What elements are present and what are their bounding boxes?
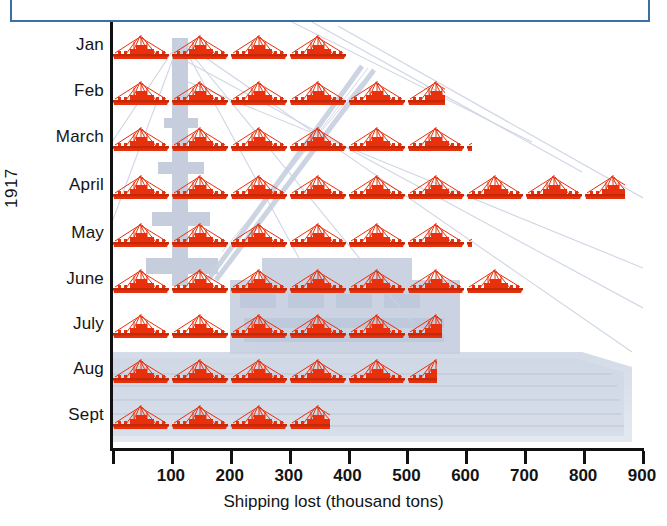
x-tick-800 [583, 451, 586, 464]
month-label-feb: Feb [8, 82, 104, 99]
ship-icon [289, 311, 348, 341]
ship-icon-partial [407, 78, 445, 108]
ship-icon [230, 220, 289, 250]
x-tick-200 [230, 451, 233, 464]
ship-icon-partial [407, 356, 437, 386]
ship-icon [348, 124, 407, 154]
ship-icon [348, 172, 407, 202]
ship-icon [230, 124, 289, 154]
ship-icon [525, 172, 584, 202]
ship-icon [171, 402, 230, 432]
ship-icon [171, 356, 230, 386]
ship-icon [112, 266, 171, 296]
ship-icon [171, 311, 230, 341]
ship-icon [289, 220, 348, 250]
x-tick-label-500: 500 [376, 466, 436, 486]
ship-icon [348, 266, 407, 296]
ship-row-feb [112, 78, 445, 112]
ship-icon [171, 124, 230, 154]
x-tick-label-100: 100 [141, 466, 201, 486]
x-tick-label-600: 600 [435, 466, 495, 486]
x-tick-400 [348, 451, 351, 464]
month-label-april: April [8, 176, 104, 193]
x-tick-label-300: 300 [259, 466, 319, 486]
ship-icon-partial [407, 311, 442, 341]
month-label-may: May [8, 224, 104, 241]
ship-icon-partial [466, 220, 472, 250]
ship-icon [112, 311, 171, 341]
ship-row-july [112, 311, 442, 345]
ship-row-june [112, 266, 525, 300]
ship-icon [466, 172, 525, 202]
ship-icon [171, 78, 230, 108]
ship-icon [348, 220, 407, 250]
ship-row-march [112, 124, 472, 158]
ship-icon [230, 32, 289, 62]
x-tick-700 [524, 451, 527, 464]
ship-icon [230, 356, 289, 386]
ship-icon-partial [289, 402, 330, 432]
x-tick-label-700: 700 [494, 466, 554, 486]
x-tick-label-900: 900 [612, 466, 667, 486]
ship-icon [230, 311, 289, 341]
x-tick-label-800: 800 [553, 466, 613, 486]
y-axis-title: 1917 [2, 168, 22, 208]
ship-icon [289, 172, 348, 202]
month-label-march: March [8, 128, 104, 145]
ship-icon-partial [466, 124, 472, 154]
x-tick-0 [112, 451, 115, 464]
x-axis-line [110, 448, 644, 451]
ship-icon [171, 220, 230, 250]
month-axis-labels: JanFebMarchAprilMayJuneJulyAugSept [0, 0, 104, 526]
x-tick-300 [289, 451, 292, 464]
ship-row-aug [112, 356, 437, 390]
month-label-aug: Aug [8, 360, 104, 377]
pictogram-chart: JanFebMarchAprilMayJuneJulyAugSept 1917 [0, 0, 667, 526]
ship-icon [112, 124, 171, 154]
x-tick-900 [642, 451, 645, 464]
ship-icon [230, 402, 289, 432]
ship-icon [348, 78, 407, 108]
ship-icon [112, 356, 171, 386]
ship-icon [348, 311, 407, 341]
month-label-sept: Sept [8, 406, 104, 423]
x-tick-600 [465, 451, 468, 464]
month-label-july: July [8, 315, 104, 332]
ship-icon [230, 172, 289, 202]
ship-icon [348, 356, 407, 386]
ship-row-april [112, 172, 625, 206]
ship-icon [171, 172, 230, 202]
ship-icon [112, 220, 171, 250]
ship-icon [407, 266, 466, 296]
month-label-june: June [8, 270, 104, 287]
ship-icon [289, 78, 348, 108]
ship-icon [230, 266, 289, 296]
ship-icon [289, 124, 348, 154]
ship-icon [407, 124, 466, 154]
x-tick-100 [171, 451, 174, 464]
ship-row-sept [112, 402, 330, 436]
ship-row-may [112, 220, 472, 254]
ship-icon [407, 172, 466, 202]
ship-icon [171, 32, 230, 62]
ship-icon [171, 266, 230, 296]
ship-icon [466, 266, 525, 296]
x-tick-label-400: 400 [318, 466, 378, 486]
ship-icon [407, 220, 466, 250]
ship-icon [112, 402, 171, 432]
ship-icon [112, 32, 171, 62]
x-axis-title: Shipping lost (thousand tons) [0, 492, 667, 512]
ship-row-jan [112, 32, 348, 66]
x-tick-label-200: 200 [200, 466, 260, 486]
ship-icon [112, 78, 171, 108]
ship-icon [230, 78, 289, 108]
ship-icon [289, 356, 348, 386]
ship-icon [289, 266, 348, 296]
ship-icon [112, 172, 171, 202]
ship-icon-partial [584, 172, 625, 202]
ship-icon [289, 32, 348, 62]
month-label-jan: Jan [8, 36, 104, 53]
x-tick-500 [406, 451, 409, 464]
